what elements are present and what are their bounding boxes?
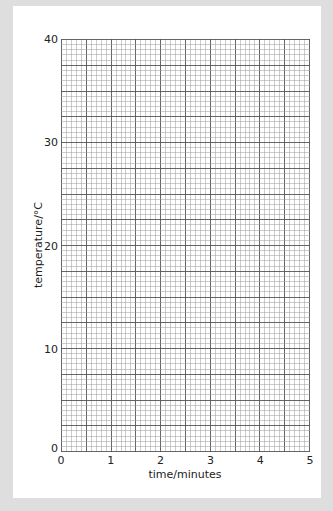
y-tick-label: 0: [51, 442, 58, 455]
y-tick-label: 20: [44, 239, 58, 252]
x-tick-label: 3: [207, 454, 214, 467]
y-axis-label: temperature/°C: [32, 202, 45, 288]
y-tick-label: 30: [44, 136, 58, 149]
graph-grid: [61, 39, 310, 452]
x-tick-label: 4: [257, 454, 264, 467]
x-tick-label: 2: [157, 454, 164, 467]
y-tick-label: 10: [44, 342, 58, 355]
x-tick-label: 0: [58, 454, 65, 467]
x-tick-label: 1: [107, 454, 114, 467]
x-tick-label: 5: [307, 454, 314, 467]
y-tick-label: 40: [44, 33, 58, 46]
x-axis-label: time/minutes: [148, 468, 221, 481]
